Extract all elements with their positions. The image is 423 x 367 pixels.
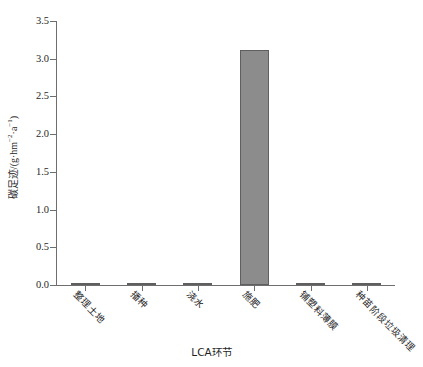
x-tick [311, 285, 312, 291]
bar [296, 283, 325, 285]
x-tick-label: 施肥 [240, 289, 262, 311]
x-axis-title: LCA环节 [0, 344, 423, 359]
x-axis-line [56, 285, 395, 286]
y-tick-label: 0.0 [5, 279, 49, 291]
chart-figure: 0.00.51.01.52.02.53.03.5 整理土地播种浇水施肥铺塑料薄膜… [0, 0, 423, 367]
x-tick [367, 285, 368, 291]
bar [127, 283, 156, 285]
bar [240, 50, 269, 285]
x-tick-label: 播种 [128, 289, 150, 311]
bar [71, 283, 100, 285]
y-tick-label: 3.5 [5, 15, 49, 27]
bar [352, 283, 381, 285]
y-tick [50, 247, 57, 248]
plot-area [57, 21, 395, 285]
x-tick [85, 285, 86, 291]
y-tick [50, 134, 57, 135]
y-tick [50, 172, 57, 173]
x-tick [198, 285, 199, 291]
x-tick-label: 整理土地 [71, 289, 107, 325]
x-tick-label: 铺塑料薄膜 [297, 289, 340, 332]
y-tick [50, 21, 57, 22]
y-tick [50, 59, 57, 60]
y-tick [50, 210, 57, 211]
x-tick-label: 浇水 [184, 289, 206, 311]
y-axis-title: 碳足迹/(g·hm−2·a−1) [5, 63, 20, 253]
y-tick [50, 96, 57, 97]
x-tick [142, 285, 143, 291]
y-tick [50, 285, 57, 286]
y-axis-title-unit: /(g·hm−2·a−1) [8, 116, 19, 169]
bar [183, 283, 212, 285]
x-tick [254, 285, 255, 291]
y-axis-title-text: 碳足迹 [8, 169, 19, 199]
